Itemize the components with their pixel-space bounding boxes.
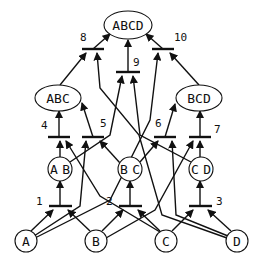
junction-bar-6: 6 xyxy=(154,117,176,137)
edge-b-to-bar2 xyxy=(102,210,123,231)
edge-a-to-bar10 xyxy=(35,53,158,238)
bar-label: 3 xyxy=(216,195,223,208)
node-label: A xyxy=(22,234,30,249)
edge-abc-to-bar8 xyxy=(60,53,86,85)
junction-bar-3: 3 xyxy=(189,195,223,208)
edge-bar6-to-bcd xyxy=(165,104,175,137)
node-abc: ABC xyxy=(35,85,81,111)
edge-b-to-bar1 xyxy=(68,210,90,231)
node-label: C xyxy=(162,234,170,249)
edge-bc-to-bar5 xyxy=(100,141,120,163)
bar-label: 8 xyxy=(80,31,87,44)
node-bcd: BCD xyxy=(176,85,222,111)
node-bc: BC xyxy=(118,157,142,181)
edge-bcd-to-bar10 xyxy=(170,53,199,85)
node-abcd: ABCD xyxy=(104,11,152,39)
edge-bar5-to-abc xyxy=(82,103,93,137)
edge-bc-to-bar6 xyxy=(140,141,158,162)
node-label: ABCD xyxy=(112,18,143,33)
edge-d-to-bar8 xyxy=(97,53,227,238)
node-c: C xyxy=(155,230,177,252)
lattice-diagram: 12345678910 ABCDABBCCDABCBCDABCD xyxy=(0,0,261,266)
bar-label: 10 xyxy=(174,31,187,44)
node-label: B xyxy=(92,234,100,249)
junction-bar-10: 10 xyxy=(152,31,187,49)
junction-bar-1: 1 xyxy=(36,195,72,208)
bar-label: 4 xyxy=(41,119,48,132)
bar-label: 6 xyxy=(155,117,162,130)
edge-a-to-bar1 xyxy=(31,210,53,231)
bar-label: 7 xyxy=(214,123,221,136)
node-a: A xyxy=(15,230,37,252)
bar-label: 1 xyxy=(36,195,43,208)
junction-bar-7: 7 xyxy=(189,123,221,137)
node-label: BCD xyxy=(187,91,211,106)
junction-bar-5: 5 xyxy=(82,117,107,137)
edge-ab-to-bar9 xyxy=(70,76,122,162)
junction-bar-4: 4 xyxy=(41,119,70,137)
junction-bar-2: 2 xyxy=(106,195,142,208)
diagram-canvas: 12345678910 ABCDABBCCDABCBCDABCD xyxy=(0,0,261,266)
node-cd: CD xyxy=(189,157,213,181)
node-b: B xyxy=(85,230,107,252)
node-label: ABC xyxy=(46,91,69,106)
node-label: D xyxy=(233,234,241,249)
bar-label: 9 xyxy=(133,56,140,69)
edge-d-to-bar3 xyxy=(208,210,231,231)
edge-bar8-to-abcd xyxy=(93,34,110,49)
bar-label: 2 xyxy=(106,195,113,208)
junction-bar-8: 8 xyxy=(80,31,104,49)
node-ab: AB xyxy=(48,157,72,181)
bar-label: 5 xyxy=(100,117,107,130)
node-d: D xyxy=(226,230,248,252)
edge-bar10-to-abcd xyxy=(146,34,163,49)
